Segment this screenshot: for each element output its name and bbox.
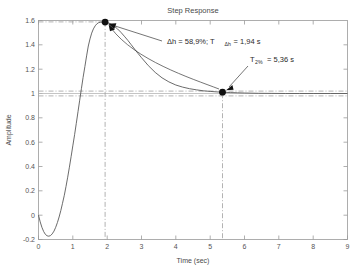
step-response-curve (39, 22, 348, 236)
y-tick-label: -0.2 (23, 236, 35, 243)
settling-leader-line (229, 66, 248, 87)
y-axis-title: Amplitude (5, 114, 13, 145)
y-tick-marks (39, 21, 348, 240)
settling-marker (219, 89, 226, 96)
x-tick-label: 9 (346, 243, 350, 250)
overshoot-annotation-tail: = 1,94 s (234, 37, 261, 46)
chart-title: Step Response (167, 6, 218, 15)
y-tick-label: 0.6 (25, 139, 35, 146)
overshoot-annotation: Δh = 58,9%; T Δh = 1,94 s (167, 37, 261, 47)
step-response-figure: Step Response (0, 0, 363, 275)
x-tick-label: 1 (71, 243, 75, 250)
overshoot-leader-line (112, 25, 162, 41)
overshoot-annotation-main: Δh = 58,9%; T (167, 37, 215, 46)
x-tick-label: 8 (311, 243, 315, 250)
y-tick-label: 0 (31, 212, 35, 219)
settling-annotation: T 2% = 5,36 s (250, 55, 294, 65)
x-tick-marks (39, 21, 348, 240)
y-tick-label: 1.2 (25, 66, 35, 73)
x-tick-label: 5 (208, 243, 212, 250)
x-tick-labels: 0 1 2 3 4 5 6 7 8 9 (37, 243, 350, 250)
y-tick-label: 1.6 (25, 17, 35, 24)
settling-annotation-tail: = 5,36 s (267, 55, 294, 64)
x-tick-label: 4 (174, 243, 178, 250)
plot-frame (39, 21, 348, 240)
y-tick-labels: -0.2 0 0.2 0.4 0.6 0.8 1 1.2 1.4 1.6 (23, 17, 35, 243)
x-tick-label: 6 (243, 243, 247, 250)
x-tick-label: 3 (140, 243, 144, 250)
x-tick-label: 2 (105, 243, 109, 250)
x-tick-label: 0 (37, 243, 41, 250)
x-tick-label: 7 (277, 243, 281, 250)
y-tick-label: 0.4 (25, 163, 35, 170)
peak-marker (102, 19, 109, 26)
x-axis-title: Time (sec) (177, 257, 210, 265)
y-tick-label: 1.4 (25, 41, 35, 48)
y-tick-label: 0.8 (25, 114, 35, 121)
chart-canvas: Step Response (0, 0, 363, 275)
y-tick-label: 0.2 (25, 187, 35, 194)
y-tick-label: 1 (31, 90, 35, 97)
overshoot-annotation-subscript: Δh (225, 41, 231, 47)
settling-annotation-subscript: 2% (255, 59, 263, 65)
